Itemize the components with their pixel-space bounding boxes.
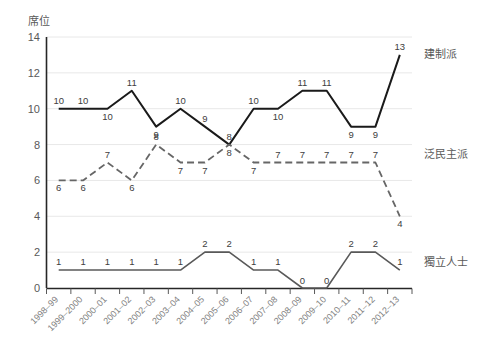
data-label: 4 [397,218,402,229]
data-label: 7 [348,149,353,160]
data-label: 10 [273,111,284,122]
data-label: 9 [202,113,207,124]
series-name-label: 建制派 [424,47,457,60]
data-label: 7 [300,149,305,160]
data-label: 7 [105,149,110,160]
y-tick-label: 2 [34,246,40,258]
data-label: 2 [373,238,378,249]
data-label: 10 [248,95,259,106]
data-label: 7 [251,165,256,176]
data-label: 9 [348,129,353,140]
data-label: 6 [56,182,61,193]
x-axis-ticks [47,289,413,295]
data-label: 7 [202,165,207,176]
chart-canvas: 02468101214 席位 1998–991999–20002000–0120… [0,0,490,346]
data-label: 0 [300,275,305,286]
data-label: 1 [251,256,256,267]
data-label: 0 [324,275,329,286]
data-label: 7 [275,149,280,160]
data-label: 10 [53,95,64,106]
data-label: 6 [129,182,134,193]
data-label: 7 [324,149,329,160]
y-tick-label: 12 [28,67,40,79]
data-label: 9 [373,129,378,140]
data-label: 2 [227,238,232,249]
data-label: 11 [322,77,332,88]
y-tick-label: 6 [34,174,40,186]
series-data-labels: 1010101191098101011119913667687787777774… [53,41,405,286]
data-label: 7 [373,149,378,160]
data-label: 13 [395,41,406,52]
series-name-label: 泛民主派 [424,148,468,160]
y-tick-label: 4 [34,210,40,222]
y-tick-label: 14 [28,31,40,43]
series-lines [59,55,400,288]
y-tick-label: 10 [28,103,40,115]
data-label: 8 [154,131,159,142]
x-axis-tick-labels: 1998–991999–20002000–012001–022002–03200… [28,294,401,333]
data-label: 6 [80,182,85,193]
y-tick-label: 0 [34,282,40,294]
data-label: 10 [78,95,89,106]
data-label: 8 [227,131,232,142]
data-label: 7 [178,165,183,176]
data-label: 2 [202,238,207,249]
data-label: 1 [105,256,110,267]
y-axis-ticks: 02468101214 [28,31,40,294]
data-label: 10 [175,95,186,106]
data-label: 11 [297,77,307,88]
data-label: 1 [129,256,134,267]
data-label: 1 [154,256,159,267]
data-label: 1 [275,256,280,267]
y-axis-title: 席位 [28,14,50,27]
y-tick-label: 8 [34,139,40,151]
series-name-label: 獨立人士 [424,255,468,268]
data-label: 1 [80,256,85,267]
series-name-labels: 建制派泛民主派獨立人士 [424,47,468,268]
data-label: 2 [348,238,353,249]
data-label: 1 [178,256,183,267]
data-label: 8 [227,147,232,158]
line-chart: 02468101214 席位 1998–991999–20002000–0120… [0,0,490,346]
data-label: 10 [102,111,113,122]
data-label: 11 [127,77,137,88]
data-label: 1 [56,256,61,267]
data-label: 1 [397,256,402,267]
